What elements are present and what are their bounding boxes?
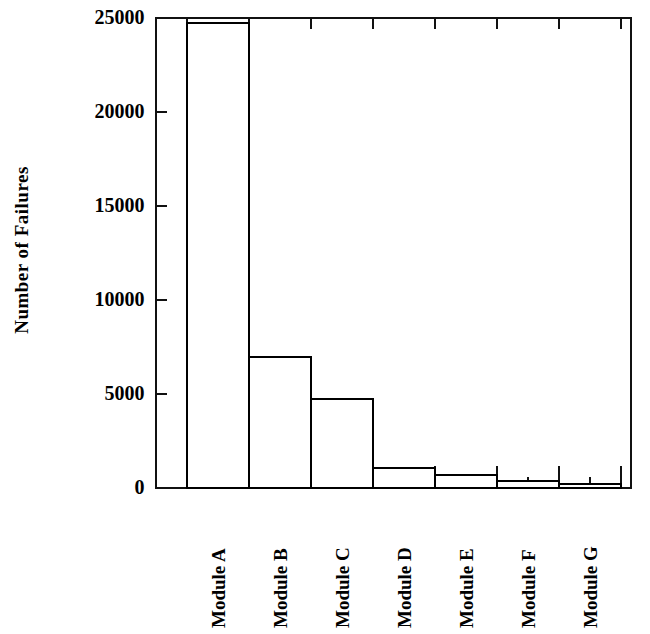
bar [497, 481, 559, 487]
bar [373, 468, 435, 488]
bar [435, 475, 497, 487]
failure-bar-chart: Number of Failures 250002000015000100005… [0, 0, 650, 634]
plot-area [0, 0, 650, 634]
bar [249, 357, 311, 488]
bar [559, 484, 621, 488]
bar [311, 399, 373, 488]
bar [187, 23, 249, 487]
